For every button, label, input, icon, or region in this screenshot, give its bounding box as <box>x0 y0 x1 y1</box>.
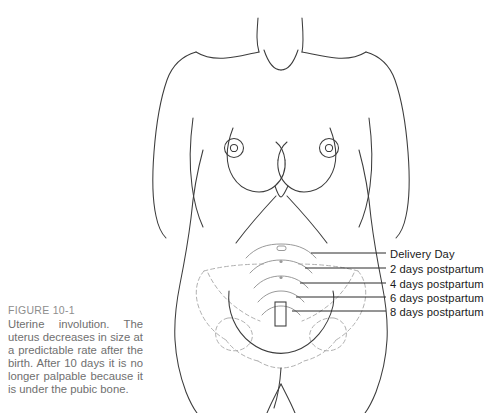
callout-label-4: 8 days postpartum <box>390 306 484 318</box>
perineum-midline <box>274 368 281 408</box>
right-clavicle <box>302 52 366 58</box>
sternal-notch-left <box>264 50 281 70</box>
umbilicus-shape <box>277 246 286 251</box>
neck-left-edge <box>257 18 259 52</box>
left-torso-side <box>175 150 203 413</box>
inner-thigh-left <box>267 384 281 413</box>
inner-thigh-right <box>281 384 295 413</box>
callout-label-1: 2 days postpartum <box>390 263 484 275</box>
neck-right-edge <box>302 18 303 52</box>
pelvic-bones-dashed <box>196 264 365 368</box>
left-nipple <box>230 144 237 151</box>
left-clavicle <box>196 52 259 58</box>
right-nipple <box>325 144 332 151</box>
sternal-notch-right <box>281 50 298 70</box>
fundal-height-curves <box>246 244 316 315</box>
umbilicus-marker <box>277 246 286 251</box>
callout-label-3: 6 days postpartum <box>390 292 484 304</box>
right-shoulder-arm-outer <box>366 52 409 238</box>
figure-number: FIGURE 10-1 <box>8 304 143 317</box>
right-torso-side <box>359 150 387 413</box>
right-obturator-foramen <box>310 318 347 351</box>
left-ilium-inner <box>208 273 260 321</box>
callout-label-0: Delivery Day <box>390 248 455 260</box>
perineum-and-thighs <box>267 368 295 413</box>
fundus-marker-2-days <box>279 260 282 263</box>
left-shoulder-arm-outer <box>153 52 196 238</box>
left-breast-contour <box>227 128 285 192</box>
costal-margin-right <box>287 196 327 243</box>
right-breast-contour <box>278 128 336 192</box>
callout-leader-lines <box>292 253 386 311</box>
figure-caption: FIGURE 10-1 Uterine involution. The uter… <box>8 304 143 397</box>
figure-page: Delivery Day2 days postpartum4 days post… <box>0 0 493 413</box>
costal-margin-left <box>236 196 276 243</box>
fundus-marker-4-days <box>279 276 282 279</box>
figure-caption-text: Uterine involution. The uterus decreases… <box>8 318 143 397</box>
callout-label-2: 4 days postpartum <box>390 278 484 290</box>
left-ilium <box>196 271 226 340</box>
pubic-symphysis-arch <box>258 361 304 368</box>
right-ilium <box>336 271 366 340</box>
cleavage-notch <box>275 186 288 197</box>
